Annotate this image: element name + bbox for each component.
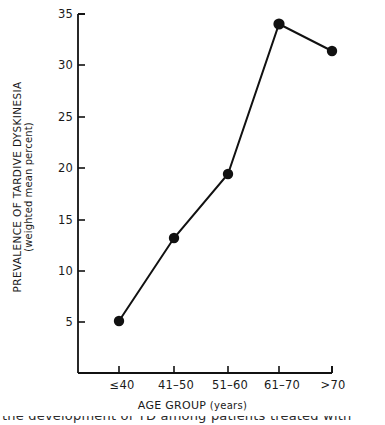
x-tick-label-4: >70 (321, 378, 346, 392)
y-axis-ticks (78, 14, 85, 322)
x-axis-title-unit-text: (years) (210, 400, 247, 411)
x-tick-label-1: 41–50 (158, 378, 194, 392)
y-axis-spine (78, 14, 85, 373)
data-point-2 (223, 169, 233, 179)
caption-text: the development of TD among patients tre… (2, 416, 351, 423)
data-point-3 (273, 18, 284, 29)
x-tick-label-0: ≤40 (110, 378, 135, 392)
x-axis-title-main: AGE GROUP (138, 399, 207, 412)
data-point-4 (327, 46, 337, 56)
cropped-caption-strip: the development of TD among patients tre… (0, 416, 385, 425)
x-axis-tick-labels: ≤40 41–50 51–60 61–70 >70 (0, 378, 385, 396)
figure-tardive-dyskinesia-by-age: PREVALENCE OF TARDIVE DYSKINESIA (weight… (0, 0, 385, 425)
x-tick-label-3: 61–70 (264, 378, 300, 392)
x-axis-title: AGE GROUP (years) (0, 399, 385, 412)
x-axis-spine (78, 366, 332, 373)
data-point-0 (114, 316, 124, 326)
x-tick-label-2: 51–60 (212, 378, 248, 392)
plot-area (0, 0, 385, 425)
data-point-1 (169, 233, 179, 243)
axes-and-series-svg (0, 0, 385, 425)
x-axis-ticks (119, 366, 332, 373)
